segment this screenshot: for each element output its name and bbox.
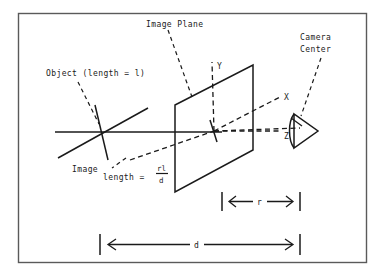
label-axis-z: Z [284, 132, 289, 141]
label-camera-center-line2: Center [300, 45, 331, 54]
leader-camera-center [301, 58, 321, 116]
label-dim-r: r [257, 198, 262, 207]
camera-body-icon [294, 114, 318, 148]
label-image-length-lhs: length = [103, 173, 145, 182]
leader-image-length [112, 158, 126, 168]
label-image-plane: Image Plane [146, 20, 203, 29]
projection-ray-lower [130, 131, 214, 160]
axis-y-line [212, 62, 214, 131]
leader-object [78, 82, 99, 124]
pinhole-camera-diagram: Image Plane Camera Center Object (length… [0, 0, 383, 277]
label-dim-d: d [194, 241, 199, 250]
object-ray-line [58, 108, 148, 158]
label-camera-center-line1: Camera [300, 33, 331, 42]
axis-x-line [214, 97, 280, 131]
label-axis-x: X [284, 93, 289, 102]
leader-image-plane [168, 30, 192, 97]
label-image-length-numerator: rl [157, 164, 166, 173]
label-object: Object (length = l) [46, 69, 145, 78]
diagram-page: Image Plane Camera Center Object (length… [0, 0, 383, 277]
label-axis-y: Y [217, 62, 222, 71]
label-image-length-denominator: d [159, 176, 164, 185]
label-image-word: Image [72, 165, 98, 174]
